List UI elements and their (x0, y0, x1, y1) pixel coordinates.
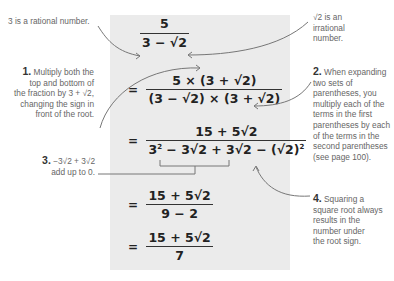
arrow-step1 (100, 68, 200, 128)
arrow-irrational (188, 22, 308, 55)
bracket-step3 (160, 160, 229, 166)
arrow-rational (98, 26, 140, 56)
annotation-arrows (0, 0, 394, 281)
arrow-step2 (254, 82, 311, 106)
arrow-step4 (256, 167, 310, 196)
